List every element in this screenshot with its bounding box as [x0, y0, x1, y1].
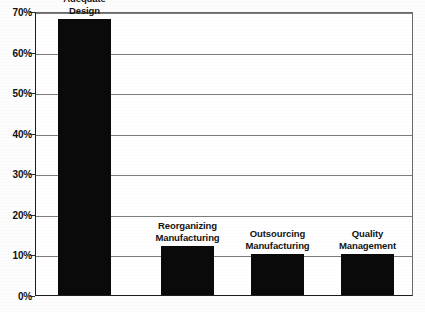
bar[interactable] — [161, 246, 214, 295]
bar-group: ReorganizingManufacturing — [161, 11, 214, 295]
bar-category-label: QualityManagement — [315, 228, 420, 251]
bar-chart: 70%60%50%40%30%20%10%0% Market-AdequateD… — [0, 0, 425, 312]
bar[interactable] — [251, 254, 304, 295]
y-axis-tick-label: 0% — [0, 291, 32, 302]
y-axis-tick-label: 60% — [0, 47, 32, 58]
bar[interactable] — [341, 254, 394, 295]
y-axis-tick-label: 70% — [0, 7, 32, 18]
y-axis-tick-mark — [30, 296, 35, 297]
bar-label-line: Design — [32, 5, 137, 17]
bar[interactable] — [58, 19, 111, 295]
y-axis-tick-label: 50% — [0, 88, 32, 99]
plot-area: Market-AdequateDesignReorganizingManufac… — [35, 12, 413, 296]
bar-group: Market-AdequateDesign — [58, 11, 111, 295]
y-axis: 70%60%50%40%30%20%10%0% — [0, 0, 32, 312]
y-axis-tick-label: 40% — [0, 128, 32, 139]
bar-category-label: Market-AdequateDesign — [32, 0, 137, 16]
y-axis-tick-label: 30% — [0, 169, 32, 180]
y-axis-tick-label: 20% — [0, 209, 32, 220]
bar-group: OutsourcingManufacturing — [251, 11, 304, 295]
bar-group: QualityManagement — [341, 11, 394, 295]
bar-label-line: Management — [315, 240, 420, 252]
bar-label-line: Quality — [315, 228, 420, 240]
y-axis-tick-label: 10% — [0, 250, 32, 261]
bars-layer: Market-AdequateDesignReorganizingManufac… — [36, 13, 412, 295]
